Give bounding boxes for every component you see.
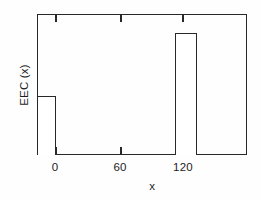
x-tick-top-0 <box>55 14 57 22</box>
figure-canvas: EEC (x) 0 60 120 x <box>0 0 263 201</box>
x-axis-label: x <box>149 180 155 192</box>
x-tick-top-120 <box>182 14 184 22</box>
plot-frame <box>37 14 247 155</box>
x-tick-top-60 <box>120 14 122 22</box>
x-ticklabel-120: 120 <box>173 161 193 173</box>
y-axis-label: EEC (x) <box>18 64 30 106</box>
bar-spike-high <box>175 33 197 155</box>
x-tick-bottom-60 <box>120 147 122 155</box>
x-ticklabel-60: 60 <box>113 161 126 173</box>
x-ticklabel-0: 0 <box>52 161 59 173</box>
bar-spike-low <box>37 96 56 155</box>
